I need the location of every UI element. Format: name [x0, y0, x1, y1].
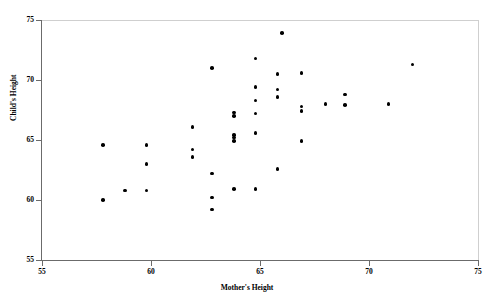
- x-tick-75: [478, 261, 479, 266]
- data-point: [101, 143, 105, 147]
- data-point: [300, 109, 304, 113]
- y-tick-label-55: 55: [8, 256, 34, 264]
- data-point: [191, 148, 195, 152]
- data-point: [254, 112, 258, 116]
- x-tick-60: [151, 261, 152, 266]
- x-tick-label-55: 55: [27, 268, 57, 276]
- y-tick-55: [36, 260, 41, 261]
- data-point: [300, 105, 304, 109]
- data-point: [232, 139, 236, 143]
- scatter-plot-figure: 5560657075 5560657075 Child's Height Mot…: [0, 0, 494, 302]
- data-point: [280, 31, 284, 35]
- data-point: [276, 88, 280, 92]
- data-point: [343, 93, 347, 97]
- data-point: [276, 72, 280, 76]
- data-point: [343, 103, 347, 107]
- x-tick-65: [260, 261, 261, 266]
- data-point: [232, 114, 236, 118]
- data-point: [101, 198, 105, 202]
- data-point: [276, 167, 280, 171]
- data-point: [300, 139, 304, 143]
- data-point: [210, 208, 214, 212]
- y-tick-label-60: 60: [8, 196, 34, 204]
- data-point: [210, 66, 214, 70]
- x-tick-70: [369, 261, 370, 266]
- plot-frame-right: [478, 20, 479, 261]
- data-point: [254, 131, 258, 135]
- x-tick-55: [42, 261, 43, 266]
- data-point: [123, 189, 127, 193]
- x-tick-label-70: 70: [354, 268, 384, 276]
- data-point: [387, 102, 391, 106]
- data-point: [254, 187, 258, 191]
- y-tick-75: [36, 20, 41, 21]
- data-point: [145, 162, 149, 166]
- data-point: [324, 102, 328, 106]
- data-point: [145, 143, 149, 147]
- data-point: [254, 99, 258, 103]
- x-tick-label-65: 65: [245, 268, 275, 276]
- data-point: [276, 95, 280, 99]
- data-point: [232, 187, 236, 191]
- data-point: [191, 155, 195, 159]
- x-axis-title: Mother's Height: [0, 283, 494, 292]
- x-tick-label-75: 75: [463, 268, 493, 276]
- data-point: [210, 172, 214, 176]
- y-tick-60: [36, 200, 41, 201]
- y-tick-65: [36, 140, 41, 141]
- data-point: [191, 125, 195, 129]
- data-point: [411, 63, 415, 67]
- y-tick-label-75: 75: [8, 16, 34, 24]
- data-point: [300, 71, 304, 75]
- plot-data-area: [42, 20, 478, 260]
- data-point: [254, 57, 258, 61]
- data-point: [210, 196, 214, 200]
- y-axis-title: Child's Height: [9, 105, 19, 121]
- data-point: [254, 85, 258, 89]
- y-tick-70: [36, 80, 41, 81]
- data-point: [145, 189, 149, 193]
- y-tick-label-65: 65: [8, 136, 34, 144]
- x-tick-label-60: 60: [136, 268, 166, 276]
